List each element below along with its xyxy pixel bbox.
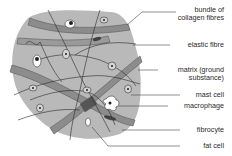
label-elastic-fibre: elastic fibre: [188, 41, 224, 49]
label-line: fat cell: [203, 142, 224, 150]
label-fat-cell: fat cell: [203, 142, 224, 150]
label-line: fibrocyte: [197, 126, 224, 134]
label-line: substance): [178, 74, 224, 82]
label-mast-cell: mast cell: [196, 91, 224, 99]
label-collagen: bundle of collagen fibres: [178, 6, 224, 22]
label-matrix: matrix (ground substance): [178, 66, 224, 82]
label-line: macrophage: [184, 102, 224, 110]
label-fibrocyte: fibrocyte: [197, 126, 224, 134]
label-macrophage: macrophage: [184, 102, 224, 110]
label-line: mast cell: [196, 91, 224, 99]
label-line: collagen fibres: [178, 14, 224, 22]
label-line: elastic fibre: [188, 41, 224, 49]
